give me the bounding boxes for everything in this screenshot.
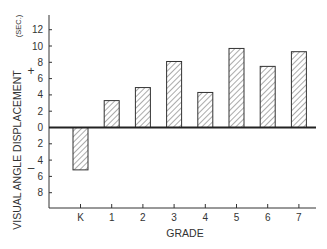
x-tick-label: 6 <box>265 212 271 223</box>
positive-sign-label: + <box>27 64 34 78</box>
bar-grade-2 <box>135 88 150 128</box>
x-tick-label: K <box>77 212 84 223</box>
y-tick-label: 2 <box>37 138 43 149</box>
y-tick-label: 4 <box>37 89 43 100</box>
y-tick-label: 10 <box>32 41 44 52</box>
x-tick-label: 5 <box>234 212 240 223</box>
y-tick-label: 2 <box>37 106 43 117</box>
y-tick-label: 8 <box>37 57 43 68</box>
y-tick-label: 6 <box>37 171 43 182</box>
y-axis-unit: (SEC.) <box>14 14 23 37</box>
bar-grade-k <box>73 128 88 170</box>
x-tick-label: 7 <box>296 212 302 223</box>
x-tick-label: 1 <box>109 212 115 223</box>
bar-grade-4 <box>198 92 213 127</box>
x-tick-label: 3 <box>171 212 177 223</box>
bars <box>73 48 306 169</box>
bar-grade-1 <box>104 101 119 128</box>
negative-sign-label: – <box>28 161 35 175</box>
y-axis-title: VISUAL ANGLE DISPLACEMENT <box>11 70 23 230</box>
y-tick-label: 8 <box>37 187 43 198</box>
y-axis-label: VISUAL ANGLE DISPLACEMENT (SEC.) <box>11 14 23 230</box>
y-tick-label: 12 <box>32 24 44 35</box>
bar-grade-6 <box>260 66 275 127</box>
x-tick-label: 4 <box>203 212 209 223</box>
y-tick-label: 4 <box>37 155 43 166</box>
bar-chart: VISUAL ANGLE DISPLACEMENT (SEC.) + – 024… <box>0 0 327 249</box>
x-tick-label: 2 <box>140 212 146 223</box>
bar-grade-5 <box>229 48 244 127</box>
bar-grade-3 <box>167 61 182 127</box>
x-axis-title: GRADE <box>166 227 203 239</box>
x-axis-ticks: K1234567 <box>77 204 302 223</box>
y-tick-label: 0 <box>37 122 43 133</box>
bar-grade-7 <box>291 52 306 128</box>
y-tick-label: 6 <box>37 73 43 84</box>
